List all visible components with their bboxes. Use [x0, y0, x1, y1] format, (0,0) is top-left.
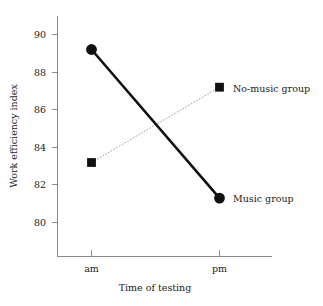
series-line-music	[92, 50, 220, 199]
x-tick-label-am: am	[84, 263, 99, 274]
data-point-music-am	[86, 44, 97, 55]
y-axis-title: Work efficiency index	[8, 84, 19, 188]
y-tick-label-88: 88	[34, 67, 46, 78]
data-point-music-pm	[214, 193, 225, 204]
y-tick-label-86: 86	[34, 104, 46, 115]
x-axis-title: Time of testing	[119, 282, 192, 293]
chart-container: 90 88 86 84 82 80 am pm Time of testing …	[0, 0, 323, 306]
y-tick-label-82: 82	[34, 179, 46, 190]
y-tick-label-90: 90	[34, 29, 46, 40]
line-chart: 90 88 86 84 82 80 am pm Time of testing …	[0, 0, 323, 306]
y-tick-label-84: 84	[34, 142, 46, 153]
y-tick-label-80: 80	[34, 217, 46, 228]
data-point-no-music-pm	[215, 83, 224, 92]
series-label-no-music: No-music group	[233, 83, 310, 94]
x-tick-label-pm: pm	[212, 263, 227, 274]
data-point-no-music-am	[87, 158, 96, 167]
series-label-music: Music group	[233, 193, 294, 204]
